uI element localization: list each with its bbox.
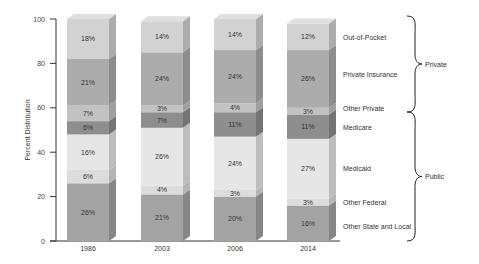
x-category-label: 2014 — [300, 245, 316, 252]
legend-label: Medicaid — [343, 165, 371, 172]
bar-side — [256, 14, 263, 50]
segment-value-label: 26% — [81, 209, 95, 216]
bar-top — [287, 18, 336, 23]
y-tick-label: 40 — [37, 149, 45, 156]
segment-value-label: 4% — [157, 186, 167, 193]
bar-side — [183, 16, 190, 52]
bars: 26%6%16%6%7%21%18%21%4%26%7%3%24%14%20%3… — [67, 14, 336, 241]
segment-value-label: 24% — [228, 160, 242, 167]
bar-side — [256, 107, 263, 136]
legend-label: Medicare — [343, 124, 372, 131]
y-tick-label: 100 — [33, 16, 45, 23]
x-category-label: 1986 — [80, 245, 96, 252]
bar-top — [67, 14, 116, 19]
segment-value-label: 11% — [301, 123, 315, 130]
segment-value-label: 16% — [81, 149, 95, 156]
segment-value-label: 3% — [303, 108, 313, 115]
bar-side — [109, 54, 116, 106]
y-axis-title: Percent Distribution — [24, 99, 31, 160]
segment-value-label: 26% — [155, 153, 169, 160]
legend-label: Private Insurance — [343, 71, 398, 78]
segment-value-label: 3% — [157, 105, 167, 112]
segment-value-label: 7% — [83, 110, 93, 117]
segment-value-label: 27% — [301, 165, 315, 172]
x-category-label: 2003 — [154, 245, 170, 252]
bar-side — [109, 129, 116, 170]
segment-value-label: 6% — [83, 173, 93, 180]
brace-icon — [407, 16, 422, 112]
segment-value-label: 6% — [83, 124, 93, 131]
group-label: Public — [425, 173, 445, 180]
segment-value-label: 14% — [228, 31, 242, 38]
legend: Other State and LocalOther FederalMedica… — [343, 16, 447, 241]
segment-value-label: 24% — [155, 75, 169, 82]
segment-value-label: 24% — [228, 73, 242, 80]
bar-top — [141, 16, 190, 21]
bar-2003: 21%4%26%7%3%24%14% — [141, 16, 190, 241]
legend-label: Other State and Local — [343, 223, 412, 230]
x-category-label: 2006 — [227, 245, 243, 252]
segment-value-label: 21% — [155, 214, 169, 221]
segment-value-label: 14% — [155, 33, 169, 40]
segment-value-label: 21% — [81, 79, 95, 86]
group-label: Private — [425, 61, 447, 68]
bar-side — [183, 47, 190, 105]
bar-side — [329, 45, 336, 108]
bar-side — [256, 45, 263, 103]
bar-top — [214, 14, 263, 19]
legend-label: Out-of-Pocket — [343, 34, 386, 41]
segment-value-label: 3% — [230, 190, 240, 197]
bar-side — [109, 178, 116, 241]
y-tick-label: 80 — [37, 60, 45, 67]
segment-value-label: 3% — [303, 199, 313, 206]
bar-2014: 16%3%27%11%3%26%12% — [287, 18, 336, 241]
bar-side — [329, 134, 336, 199]
bar-side — [329, 109, 336, 138]
bar-1986: 26%6%16%6%7%21%18% — [67, 14, 116, 241]
bar-2006: 20%3%24%11%4%24%14% — [214, 14, 263, 241]
y-tick-label: 20 — [37, 193, 45, 200]
legend-label: Other Federal — [343, 199, 387, 206]
stacked-bar-chart: 020406080100 26%6%16%6%7%21%18%21%4%26%7… — [0, 0, 479, 264]
segment-value-label: 4% — [230, 104, 240, 111]
bar-side — [183, 123, 190, 186]
legend-label: Other Private — [343, 105, 384, 112]
bar-side — [256, 132, 263, 190]
segment-value-label: 26% — [301, 75, 315, 82]
segment-value-label: 11% — [228, 121, 242, 128]
bar-side — [183, 189, 190, 241]
segment-value-label: 7% — [157, 117, 167, 124]
x-axis-labels: 1986200320062014 — [80, 245, 316, 252]
y-tick-label: 0 — [41, 238, 45, 245]
segment-value-label: 12% — [301, 33, 315, 40]
segment-value-label: 20% — [228, 215, 242, 222]
y-tick-label: 60 — [37, 104, 45, 111]
bar-side — [329, 200, 336, 241]
segment-value-label: 18% — [81, 35, 95, 42]
bar-side — [329, 18, 336, 50]
bar-side — [109, 14, 116, 59]
bar-side — [256, 192, 263, 241]
segment-value-label: 16% — [301, 220, 315, 227]
